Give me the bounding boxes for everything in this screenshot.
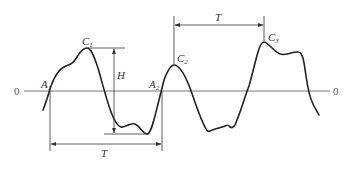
point-label-a2: A2: [148, 78, 160, 92]
t-top-label: T: [215, 11, 222, 23]
point-label-c1: C1: [82, 35, 93, 49]
point-label-c3: C3: [268, 31, 279, 45]
h-label: H: [116, 69, 126, 81]
zero-label-right: 0: [333, 85, 339, 97]
point-label-a1: A1: [40, 78, 51, 92]
wave-diagram: 0 0 H T T A1 A2 C1 C2 C3: [0, 0, 349, 169]
zero-label-left: 0: [14, 85, 20, 97]
t-bottom-label: T: [101, 147, 108, 159]
point-label-c2: C2: [177, 52, 188, 66]
